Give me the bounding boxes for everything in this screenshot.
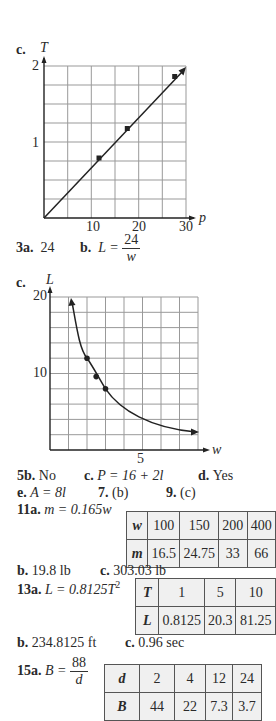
- data-curve: [72, 303, 196, 432]
- y-tick-1: 1: [32, 135, 39, 151]
- table-row: L 0.8125 20.3 81.25: [136, 607, 276, 635]
- table-row: d 2 4 12 24: [105, 665, 262, 693]
- y-tick-2: 2: [32, 58, 39, 74]
- answer-11b: b. 19.8 lb: [17, 563, 71, 579]
- fraction: 24 w: [122, 232, 140, 265]
- answer-11c: c. 303.03 lb: [100, 563, 166, 579]
- table-t-l: T 1 5 10 L 0.8125 20.3 81.25: [135, 578, 276, 635]
- answer-5d: d. Yes: [198, 468, 233, 484]
- x-tick-30: 30: [179, 219, 193, 235]
- table-row: B 44 22 7.3 3.7: [105, 693, 262, 721]
- answer-3b: b. L = 24 w: [80, 232, 140, 265]
- table-row: w 100 150 200 400: [127, 512, 276, 540]
- answer-5b: 5b. No: [17, 468, 56, 484]
- x-axis-arrow-icon: [203, 448, 210, 453]
- answer-11a: 11a. m = 0.165w: [17, 502, 112, 518]
- table-w-m: w 100 150 200 400 m 16.5 24.75 33 66: [126, 511, 276, 568]
- answer-5c: c. P = 16 + 2l: [84, 468, 163, 484]
- answer-15a: 15a. B = 88 d: [17, 655, 88, 688]
- answer-5e: e. A = 8l: [17, 485, 66, 501]
- y-axis-arrow-icon: [42, 56, 47, 63]
- y-axis-label: T: [40, 40, 48, 56]
- x-axis-label: p: [199, 210, 206, 226]
- answer-9: 9. (c): [166, 485, 196, 501]
- answer-13c: c. 0.96 sec: [125, 635, 184, 651]
- curve-arrow-top-icon: [69, 298, 76, 306]
- y-tick-10: 10: [33, 365, 47, 381]
- y-axis-label: L: [46, 272, 54, 288]
- table-d-b: d 2 4 12 24 B 44 22 7.3 3.7: [104, 664, 262, 721]
- fraction: 88 d: [70, 655, 88, 688]
- x-axis-label: w: [212, 442, 221, 458]
- answer-3a: 3a. 24: [16, 240, 55, 256]
- answer-7: 7. (b): [98, 485, 128, 501]
- table-row: T 1 5 10: [136, 579, 276, 607]
- grid: [50, 297, 198, 450]
- x-tick-5: 5: [137, 451, 144, 467]
- data-points: [97, 74, 178, 161]
- y-tick-20: 20: [33, 288, 47, 304]
- answer-13b: b. 234.8125 ft: [17, 635, 96, 651]
- answer-13a: 13a. L = 0.8125T2: [17, 579, 120, 598]
